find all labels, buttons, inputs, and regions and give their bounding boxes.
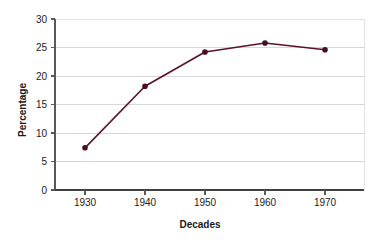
data-point-marker [262, 40, 268, 46]
line-chart: 051015202530 19301940195019601970 Decade… [0, 0, 387, 244]
y-axis-tick-label: 15 [36, 99, 48, 110]
chart-canvas: 051015202530 19301940195019601970 Decade… [0, 0, 387, 244]
x-axis-tick-label: 1970 [314, 197, 337, 208]
y-axis-title: Percentage [17, 83, 28, 137]
data-point-marker [322, 47, 328, 53]
y-axis-tick-label: 5 [41, 156, 47, 167]
y-axis-tick-label: 20 [36, 71, 48, 82]
y-axis-tick-label: 25 [36, 42, 48, 53]
x-axis-tick-label: 1940 [134, 197, 157, 208]
x-axis-tick-label: 1960 [254, 197, 277, 208]
y-axis-tick-label: 0 [41, 185, 47, 196]
x-axis-title: Decades [179, 219, 221, 230]
y-axis-tick-label: 30 [36, 14, 48, 25]
data-point-marker [82, 145, 88, 151]
y-axis-tick-label: 10 [36, 128, 48, 139]
x-axis-tick-label: 1930 [74, 197, 97, 208]
x-axis-tick-label: 1950 [194, 197, 217, 208]
data-point-marker [142, 83, 148, 89]
data-point-marker [202, 49, 208, 55]
